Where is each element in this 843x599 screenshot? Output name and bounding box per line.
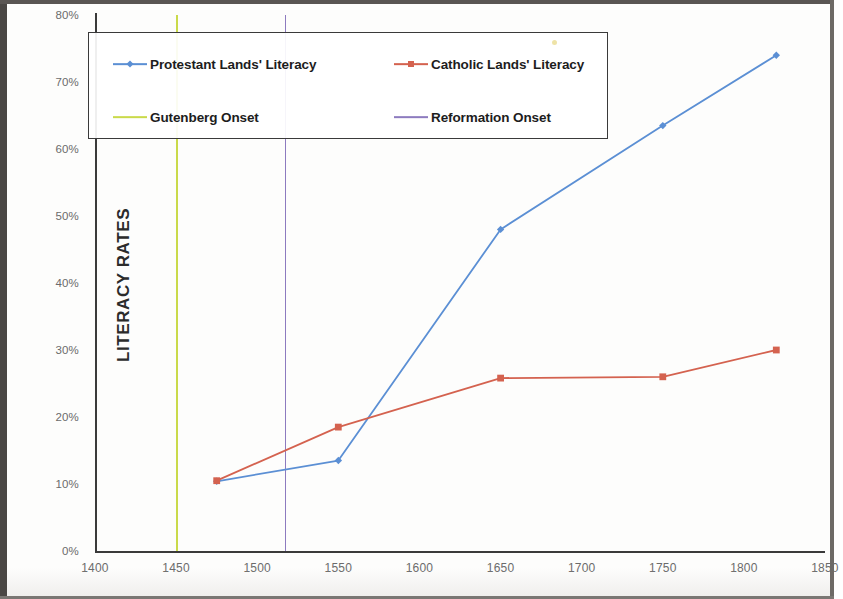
legend-label-reformation: Reformation Onset xyxy=(431,110,551,125)
data-point-marker xyxy=(659,373,666,380)
legend-label-catholic: Catholic Lands' Literacy xyxy=(431,57,584,72)
page-border-left xyxy=(0,0,7,599)
series-line xyxy=(217,350,777,481)
legend-item-gutenberg[interactable]: Gutenberg Onset xyxy=(113,107,259,127)
page-border-right xyxy=(830,0,834,599)
legend-item-catholic[interactable]: Catholic Lands' Literacy xyxy=(394,54,584,74)
chart-legend: Protestant Lands' Literacy Catholic Land… xyxy=(88,32,608,139)
legend-label-gutenberg: Gutenberg Onset xyxy=(150,110,259,125)
line-chart: 0%10%20%30%40%50%60%70%80% 1400145015001… xyxy=(7,5,830,565)
legend-swatch-gutenberg-line-icon xyxy=(113,111,147,123)
legend-item-reformation[interactable]: Reformation Onset xyxy=(394,107,551,127)
data-point-marker xyxy=(497,375,504,382)
legend-swatch-protestant-line-icon xyxy=(113,58,147,70)
legend-item-protestant[interactable]: Protestant Lands' Literacy xyxy=(113,54,316,74)
legend-swatch-reformation-line-icon xyxy=(394,111,428,123)
data-point-marker xyxy=(773,347,780,354)
scan-artifact-smudge xyxy=(552,40,557,45)
data-point-marker xyxy=(335,424,342,431)
page-border-top xyxy=(0,0,834,4)
legend-label-protestant: Protestant Lands' Literacy xyxy=(150,57,316,72)
legend-swatch-catholic-line-icon xyxy=(394,58,428,70)
data-point-marker xyxy=(213,477,220,484)
